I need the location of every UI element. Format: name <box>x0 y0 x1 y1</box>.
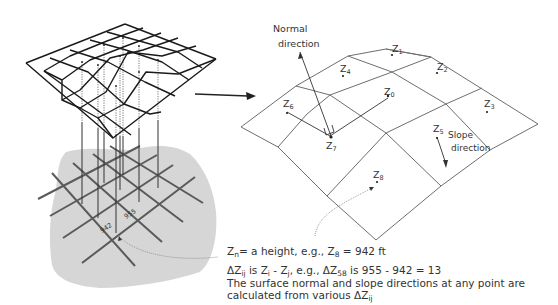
elevation-mesh <box>26 24 216 138</box>
label-z0: Z0 <box>384 86 395 99</box>
normal-label-line1: Normal <box>273 23 307 34</box>
detail-mesh <box>241 49 538 240</box>
label-z5: Z5 <box>433 123 444 136</box>
arrow-to-detail <box>195 92 256 100</box>
label-z3: Z3 <box>484 98 495 111</box>
slope-vector <box>437 137 448 168</box>
label-z4: Z4 <box>340 63 351 76</box>
label-z2: Z2 <box>437 61 448 74</box>
label-z7: Z7 <box>326 140 337 153</box>
slope-label-line2: direction <box>451 143 490 153</box>
caption-calculated-from: calculated from various ΔZij <box>227 289 373 305</box>
normal-label-line2: direction <box>278 38 320 49</box>
caption-height-definition: Zn= a height, e.g., Z8 = 942 ft <box>227 245 386 261</box>
elevation-mesh-grid <box>44 71 131 135</box>
label-z1: Z1 <box>392 43 403 56</box>
point-labels: Z0 Z1 Z2 Z3 Z4 Z5 Z6 Z7 Z8 <box>283 43 495 182</box>
label-z6: Z6 <box>283 98 294 111</box>
label-z8: Z8 <box>373 169 384 182</box>
slope-label-line1: Slope <box>448 130 473 140</box>
leader-arrow-8 <box>369 187 374 191</box>
